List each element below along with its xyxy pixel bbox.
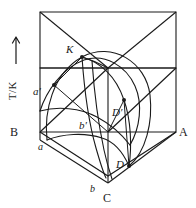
point-label-D: D bbox=[115, 158, 124, 170]
up-arrow-icon bbox=[13, 37, 20, 64]
point-label-a: a bbox=[38, 141, 43, 152]
vertex-label-B: B bbox=[10, 125, 18, 139]
curve-K-to-Dprime bbox=[82, 57, 131, 166]
marker-a-prime bbox=[52, 83, 56, 87]
marker-D-prime bbox=[122, 98, 126, 102]
curve-K-to-b bbox=[82, 57, 106, 178]
phase-diagram-svg: B A C K a′ b′ D′ a b D T/K bbox=[0, 0, 196, 208]
marker-K bbox=[80, 55, 84, 59]
y-axis-label: T/K bbox=[6, 81, 18, 100]
point-label-K: K bbox=[65, 43, 74, 55]
point-label-a-prime: a′ bbox=[33, 85, 42, 97]
vertex-label-A: A bbox=[179, 125, 188, 139]
figure-container: B A C K a′ b′ D′ a b D T/K bbox=[0, 0, 196, 208]
y-axis-group: T/K bbox=[6, 37, 20, 100]
tieline-K-aprime bbox=[54, 57, 82, 85]
marker-D bbox=[127, 164, 131, 168]
point-label-b: b bbox=[90, 183, 95, 194]
vertex-label-C: C bbox=[103, 191, 111, 205]
point-label-b-prime: b′ bbox=[79, 119, 88, 131]
point-label-D-prime: D′ bbox=[111, 106, 123, 118]
